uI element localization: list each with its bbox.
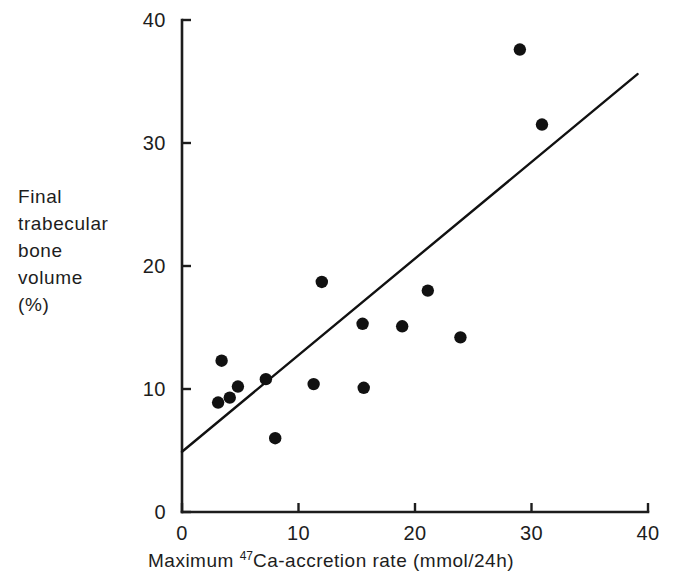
x-axis-tick-label: 0	[176, 522, 188, 544]
x-axis-title-suffix: Ca-accretion rate (mmol/24h)	[253, 550, 514, 571]
regression-line	[182, 74, 638, 452]
data-point[interactable]	[422, 284, 434, 296]
data-point[interactable]	[212, 396, 224, 408]
y-axis-title-line-3: bone	[18, 237, 168, 264]
x-axis-tick-label: 30	[520, 522, 543, 544]
y-axis-title-line-5: (%)	[18, 291, 168, 318]
x-axis-title-prefix: Maximum	[148, 550, 240, 571]
data-point[interactable]	[514, 43, 526, 55]
data-point[interactable]	[260, 373, 272, 385]
y-axis-tick-label: 40	[143, 9, 166, 31]
data-point[interactable]	[215, 355, 227, 367]
x-axis-title-superscript: 47	[240, 549, 253, 563]
data-point[interactable]	[454, 331, 466, 343]
x-axis-title: Maximum 47Ca-accretion rate (mmol/24h)	[148, 549, 514, 572]
x-axis-tick-label: 20	[403, 522, 426, 544]
y-axis-title: Final trabecular bone volume (%)	[18, 183, 168, 318]
data-point[interactable]	[224, 391, 236, 403]
data-point[interactable]	[536, 118, 548, 130]
y-axis-tick-label: 30	[143, 132, 166, 154]
x-axis-tick-label: 10	[287, 522, 310, 544]
data-point[interactable]	[316, 276, 328, 288]
data-point[interactable]	[232, 380, 244, 392]
y-axis-tick-label: 10	[143, 378, 166, 400]
y-axis-title-line-4: volume	[18, 264, 168, 291]
chart-figure: 010203040010203040 Final trabecular bone…	[0, 0, 676, 585]
y-axis-tick-label: 0	[154, 501, 166, 523]
data-point[interactable]	[269, 432, 281, 444]
y-axis-title-line-2: trabecular	[18, 210, 168, 237]
x-axis-tick-label: 40	[636, 522, 659, 544]
data-point[interactable]	[356, 318, 368, 330]
data-point[interactable]	[358, 382, 370, 394]
y-axis-title-line-1: Final	[18, 183, 168, 210]
data-point[interactable]	[396, 320, 408, 332]
data-point[interactable]	[307, 378, 319, 390]
